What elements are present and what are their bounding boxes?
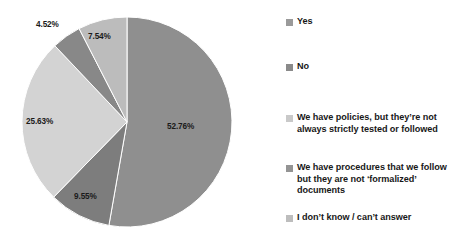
pie-slice-label: 9.55% [74, 192, 97, 201]
pie-slice-group [22, 17, 232, 227]
legend-swatch-icon [286, 115, 293, 122]
pie-slice-label: 52.76% [167, 122, 194, 131]
legend-item-label: Yes [297, 16, 313, 28]
pie-chart: 52.76%9.55%25.63%4.52%7.54% YesNoWe have… [0, 0, 458, 241]
legend-swatch-icon [286, 215, 293, 222]
legend-swatch-icon [286, 19, 293, 26]
pie-slice-label: 4.52% [36, 20, 59, 29]
legend-item[interactable]: No [286, 61, 454, 73]
pie-slice-label: 25.63% [26, 117, 53, 126]
legend-item[interactable]: Yes [286, 16, 454, 28]
legend-item-label: We have policies, but they’re not always… [297, 112, 454, 135]
legend-item[interactable]: I don’t know / can’t answer [286, 212, 454, 224]
legend-swatch-icon [286, 64, 293, 71]
legend-item[interactable]: We have procedures that we follow but th… [286, 162, 454, 197]
pie-slice-label: 7.54% [88, 32, 111, 41]
legend-item-label: No [297, 61, 309, 73]
legend-item-label: I don’t know / can’t answer [297, 212, 411, 224]
legend-item-label: We have procedures that we follow but th… [297, 162, 454, 197]
legend-swatch-icon [286, 165, 293, 172]
pie-plot-area: 52.76%9.55%25.63%4.52%7.54% [0, 0, 272, 241]
legend-item[interactable]: We have policies, but they’re not always… [286, 112, 454, 135]
